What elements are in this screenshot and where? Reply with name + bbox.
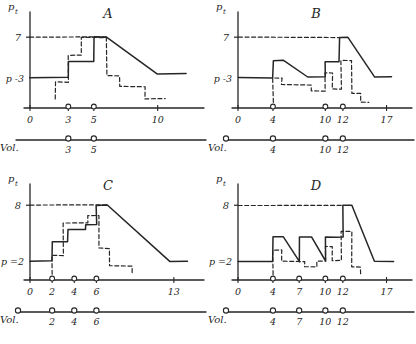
axis-event-marker	[271, 276, 276, 281]
y-axis-label-sub: t	[223, 8, 226, 16]
axis-event-marker	[323, 276, 328, 281]
vol-marker-label: 4	[70, 316, 77, 327]
vol-axis-label: Vol.	[208, 142, 227, 153]
x-tick-label: 2	[48, 286, 55, 297]
vol-axis-label: Vol.	[0, 142, 19, 153]
vol-marker-label: 12	[337, 144, 349, 155]
y-axis-label: p	[216, 173, 223, 184]
p0-label: p -3	[214, 73, 232, 84]
vol-marker-label: 4	[269, 316, 276, 327]
axis-event-marker	[94, 276, 99, 281]
vol-marker	[50, 308, 55, 313]
vol-marker	[270, 308, 275, 313]
x-tick-label: 0	[235, 286, 241, 297]
x-tick-label: 10	[152, 114, 164, 125]
x-tick-label: 3	[65, 114, 71, 125]
y-axis-label: p	[8, 173, 15, 184]
ceiling-label: 8	[15, 200, 21, 211]
x-tick-label: 17	[380, 286, 393, 297]
axis-event-marker	[271, 104, 276, 109]
p0-label: p =2	[1, 256, 24, 267]
vol-marker-label: 12	[337, 316, 349, 327]
vol-marker	[340, 308, 345, 313]
axis-event-marker	[50, 276, 55, 281]
panel-A-svg: Aptt7p -303510Vol.35	[0, 0, 208, 172]
panel-A: Aptt7p -303510Vol.35	[0, 0, 208, 172]
panel-D-svg: Dptt8p =2047101217Vol.471012	[208, 172, 416, 344]
vol-marker	[91, 136, 96, 141]
vol-marker-label: 7	[296, 316, 303, 327]
vol-marker	[297, 308, 302, 313]
vol-marker-origin	[15, 308, 20, 313]
y-axis-label-sub: t	[15, 180, 18, 188]
axis-event-marker	[323, 104, 328, 109]
figure-sheet: Aptt7p -303510Vol.35 Bptt7p -304101217Vo…	[0, 0, 416, 344]
vol-marker-label: 2	[48, 316, 55, 327]
vol-marker-label: 5	[91, 144, 97, 155]
vol-marker	[323, 136, 328, 141]
y-axis-label: p	[216, 1, 223, 12]
vol-marker	[340, 136, 345, 141]
p0-label: p -3	[6, 73, 24, 84]
panel-title: D	[310, 178, 322, 193]
x-tick-label: 0	[27, 114, 33, 125]
series-ceiling	[238, 37, 339, 38]
x-tick-label: 10	[319, 286, 331, 297]
x-tick-label: 13	[168, 286, 180, 297]
x-tick-label: 12	[337, 286, 349, 297]
panel-B-svg: Bptt7p -304101217Vol.41012	[208, 0, 416, 172]
x-tick-label: 12	[337, 114, 349, 125]
panel-C-svg: Cptt8p =2024613Vol.246	[0, 172, 208, 344]
vol-marker	[323, 308, 328, 313]
x-tick-label: 4	[269, 114, 276, 125]
vol-marker	[66, 136, 71, 141]
y-axis-label: p	[8, 1, 15, 12]
vol-marker	[94, 308, 99, 313]
x-tick-label: 6	[93, 286, 99, 297]
x-tick-label: 0	[235, 114, 241, 125]
panel-title: B	[310, 6, 321, 21]
x-tick-label: 4	[269, 286, 276, 297]
vol-marker-label: 4	[269, 144, 276, 155]
y-axis-label-sub: t	[15, 8, 18, 16]
series-solid	[30, 37, 186, 78]
series-dashed	[273, 231, 361, 274]
vol-marker-origin	[223, 308, 228, 313]
vol-marker-label: 10	[319, 144, 331, 155]
x-tick-label: 0	[27, 286, 33, 297]
x-tick-label: 5	[91, 114, 97, 125]
panel-B: Bptt7p -304101217Vol.41012	[208, 0, 416, 172]
x-tick-label: 10	[319, 114, 331, 125]
axis-event-marker	[340, 104, 345, 109]
axis-event-marker	[66, 104, 71, 109]
vol-marker	[270, 136, 275, 141]
series-solid	[238, 37, 391, 78]
ceiling-label: 7	[15, 32, 22, 43]
ceiling-label: 7	[223, 32, 230, 43]
vol-marker-label: 6	[93, 316, 99, 327]
axis-event-marker	[297, 276, 302, 281]
x-tick-label: 4	[70, 286, 77, 297]
panel-title: A	[102, 6, 112, 21]
panel-C: Cptt8p =2024613Vol.246	[0, 172, 208, 344]
vol-marker-label: 10	[319, 316, 331, 327]
panel-title: C	[103, 178, 113, 193]
series-solid	[238, 205, 393, 261]
y-axis-label-sub: t	[223, 180, 226, 188]
ceiling-label: 8	[223, 200, 229, 211]
axis-event-marker	[91, 104, 96, 109]
axis-event-marker	[72, 276, 77, 281]
p0-label: p =2	[209, 256, 232, 267]
axis-event-marker	[340, 276, 345, 281]
series-dashed	[273, 60, 369, 102]
vol-marker-origin	[223, 136, 228, 141]
x-tick-label: 7	[296, 286, 303, 297]
series-solid	[30, 205, 187, 261]
vol-axis-label: Vol.	[0, 314, 19, 325]
panel-D: Dptt8p =2047101217Vol.471012	[208, 172, 416, 344]
vol-marker	[72, 308, 77, 313]
x-tick-label: 17	[380, 114, 393, 125]
vol-marker-label: 3	[65, 144, 71, 155]
vol-axis-label: Vol.	[208, 314, 227, 325]
